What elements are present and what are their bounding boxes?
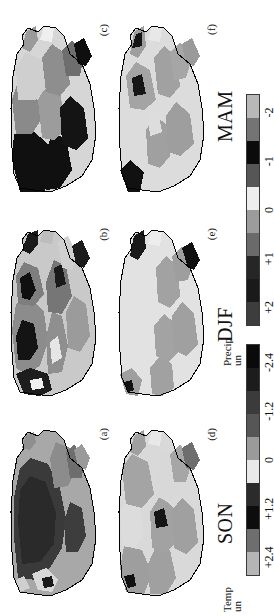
swatch: [247, 552, 259, 575]
panel-letter: (e): [205, 228, 217, 240]
swatch: [247, 187, 259, 210]
swatch: [247, 529, 259, 552]
swatch: [247, 483, 259, 506]
tick-label: +2: [262, 301, 270, 314]
swatch: [247, 414, 259, 437]
panel-a[interactable]: (a): [4, 422, 108, 608]
colorbar-temp-label-line2: un: [232, 587, 242, 612]
panel-letter: (b): [97, 228, 109, 241]
swatch: [247, 368, 259, 391]
colorbar-temp-ticks: +2.4 +1.2 0 -1.2 -2.4: [260, 344, 270, 576]
colorbar-temp[interactable]: [246, 344, 260, 576]
map-b-djf-temp: [4, 222, 108, 408]
panel-letter: (d): [205, 428, 217, 441]
climate-figure: (a): [0, 0, 270, 616]
panel-f[interactable]: (f): [112, 18, 216, 204]
colorbar-precip-label: Precip un: [222, 338, 242, 366]
colorbar-precip-ticks: +2 +1 0 -1 -2: [260, 94, 270, 326]
tick-label: -2.4: [262, 353, 270, 372]
swatch: [247, 437, 259, 460]
map-d-son-precip: [112, 422, 216, 608]
tick-label: 0: [262, 207, 270, 213]
swatch: [247, 345, 259, 368]
panel-grid: (a): [0, 0, 218, 616]
tick-label: -1.2: [262, 402, 270, 421]
season-label-djf: DJF: [214, 307, 237, 342]
swatch: [247, 460, 259, 483]
swatch: [247, 256, 259, 279]
season-label-son: SON: [214, 502, 237, 544]
panel-b[interactable]: (b): [4, 222, 108, 408]
swatch: [247, 141, 259, 164]
swatch: [247, 233, 259, 256]
colorbar-precip-label-line2: un: [232, 338, 242, 366]
colorbar-precip-group: +2 +1 0 -1 -2: [246, 94, 270, 326]
swatch: [247, 506, 259, 529]
colorbar-temp-label: Temp un: [222, 587, 242, 612]
map-f-mam-precip: [112, 18, 216, 204]
panel-letter: (c): [97, 24, 109, 36]
figure-stage: (a): [0, 0, 270, 616]
tick-label: +1.2: [262, 498, 270, 520]
tick-label: +2.4: [262, 547, 270, 569]
colorbar-temp-group: +2.4 +1.2 0 -1.2 -2.4: [246, 344, 270, 576]
swatch: [247, 279, 259, 302]
panel-letter: (f): [205, 24, 217, 35]
map-a-son-temp: [4, 422, 108, 608]
panel-e[interactable]: (e): [112, 222, 216, 408]
swatch: [247, 118, 259, 141]
map-e-djf-precip: [112, 222, 216, 408]
tick-label: -1: [262, 156, 270, 166]
panel-d[interactable]: (d): [112, 422, 216, 608]
swatch: [247, 210, 259, 233]
colorbar-precip[interactable]: [246, 94, 260, 326]
map-c-mam-temp: [4, 18, 108, 204]
season-label-mam: MAM: [214, 90, 237, 142]
swatch: [247, 164, 259, 187]
tick-label: 0: [262, 457, 270, 463]
panel-letter: (a): [97, 428, 109, 440]
tick-label: -2: [262, 108, 270, 118]
swatch: [247, 391, 259, 414]
tick-label: +1: [262, 252, 270, 265]
swatch: [247, 95, 259, 118]
swatch: [247, 302, 259, 325]
panel-c[interactable]: (c): [4, 18, 108, 204]
